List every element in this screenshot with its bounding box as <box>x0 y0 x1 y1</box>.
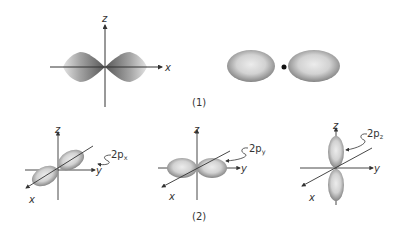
lobe-top <box>328 136 344 168</box>
x-axis <box>26 146 93 188</box>
orbital-label: 2pz <box>367 128 384 141</box>
z-axis-label: z <box>193 124 200 135</box>
orbital-diagram: z x (1) z y x 2px z y x 2py <box>0 0 399 236</box>
lobe-bottom <box>328 169 344 201</box>
figure-2-caption: (2) <box>192 211 206 222</box>
orbital-2pz: z y x 2pz <box>300 120 384 205</box>
orbital-label: 2px <box>111 149 128 162</box>
z-axis-label: z <box>54 124 61 135</box>
x-axis-label: x <box>28 194 35 205</box>
orbital-2px: z y x 2px <box>25 124 128 205</box>
orbital-label: 2py <box>249 143 266 156</box>
y-axis-label: y <box>95 165 103 176</box>
y-axis-label: y <box>240 163 248 174</box>
lobe-left <box>227 50 275 82</box>
fig1-left-orbital: z x <box>50 13 171 107</box>
x-axis-label: x <box>308 192 315 203</box>
figure-1-caption: (1) <box>192 97 206 108</box>
label-pointer <box>226 148 248 161</box>
y-axis-label: y <box>373 163 381 174</box>
x-axis-label: x <box>164 62 171 73</box>
z-axis-label: z <box>101 13 108 24</box>
fig1-right-orbital <box>227 50 340 82</box>
x-axis-label: x <box>168 191 175 202</box>
lobe-right <box>288 50 340 82</box>
z-axis-label: z <box>332 120 339 131</box>
label-pointer <box>98 155 111 165</box>
label-pointer <box>346 134 367 150</box>
lobe-left <box>167 158 197 178</box>
nucleus-dot <box>282 65 287 70</box>
orbital-2py: z y x 2py <box>158 124 266 202</box>
